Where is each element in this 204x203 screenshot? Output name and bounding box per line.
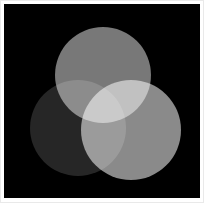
venn-figure (0, 0, 204, 203)
venn-circle-bottom-right (81, 80, 181, 180)
plot-canvas (4, 4, 200, 198)
